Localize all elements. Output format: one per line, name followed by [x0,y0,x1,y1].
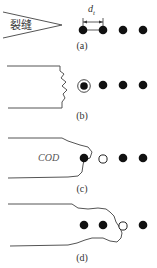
atom-dot [139,154,148,163]
panel-d-label: (d) [67,252,97,263]
atom-dot [139,26,148,35]
atom-dot [80,154,89,163]
atom-dot [139,221,148,230]
cod-label: COD [38,152,59,163]
panel-a-label: (a) [67,40,97,51]
open-atom-dot [99,155,107,163]
atom-dot [99,221,108,230]
open-atom-dot [119,222,127,230]
spacing-label: dt [88,3,95,17]
panel-b-label: (b) [67,110,97,121]
atom-dot [80,221,89,230]
atom-dot [79,26,88,35]
atom-dot [119,154,128,163]
panel-d-graphic [8,204,147,246]
crack-label: 裂缝 [10,16,32,32]
panel-c-graphic [8,138,147,178]
atom-dot [80,82,88,90]
blunted-crack-outline [7,66,67,108]
panel-b-graphic [7,66,147,108]
atom-dot [99,81,108,90]
atom-dot [139,81,148,90]
atom-dot [119,26,128,35]
panel-c-label: (c) [67,183,97,194]
atom-dot [119,81,128,90]
atom-dot [99,26,108,35]
